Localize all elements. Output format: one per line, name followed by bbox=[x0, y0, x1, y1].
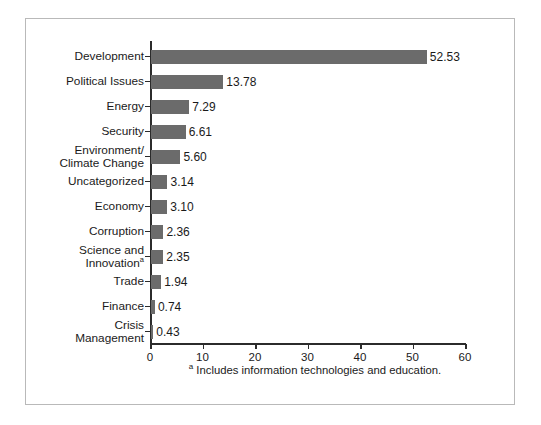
bar-row: Economy3.10 bbox=[0, 195, 541, 220]
bar-value-environment-climate-change: 5.60 bbox=[183, 150, 206, 164]
category-label-uncategorized: Uncategorized bbox=[0, 175, 144, 188]
category-label-crisis-management: Crisis Management bbox=[0, 319, 144, 344]
bar-trade bbox=[151, 275, 161, 289]
bar-value-finance: 0.74 bbox=[158, 300, 181, 314]
category-label-trade: Trade bbox=[0, 275, 144, 288]
bar-corruption bbox=[151, 225, 163, 239]
category-label-development: Development bbox=[0, 50, 144, 63]
bar-security bbox=[151, 125, 186, 139]
x-tick-label-60: 60 bbox=[445, 350, 485, 364]
bar-economy bbox=[151, 200, 167, 214]
chart-figure: 0102030405060 Development52.53Political … bbox=[0, 0, 541, 425]
bar-value-economy: 3.10 bbox=[170, 200, 193, 214]
bar-value-uncategorized: 3.14 bbox=[170, 175, 193, 189]
x-tick-label-20: 20 bbox=[235, 350, 275, 364]
category-footnote-marker: a bbox=[140, 255, 144, 264]
bar-row: Corruption2.36 bbox=[0, 220, 541, 245]
bar-science-and-innovation bbox=[151, 250, 163, 264]
bar-row: Finance0.74 bbox=[0, 295, 541, 320]
bar-energy bbox=[151, 100, 189, 114]
bar-environment-climate-change bbox=[151, 150, 180, 164]
category-label-economy: Economy bbox=[0, 200, 144, 213]
bar-row: Political Issues13.78 bbox=[0, 70, 541, 95]
bar-row: Environment/ Climate Change5.60 bbox=[0, 145, 541, 170]
bar-uncategorized bbox=[151, 175, 167, 189]
bar-value-security: 6.61 bbox=[189, 125, 212, 139]
bar-value-energy: 7.29 bbox=[192, 100, 215, 114]
bar-row: Science and Innovationa2.35 bbox=[0, 245, 541, 270]
bar-row: Security6.61 bbox=[0, 120, 541, 145]
bar-row: Development52.53 bbox=[0, 45, 541, 70]
plot-area: 0102030405060 Development52.53Political … bbox=[0, 0, 541, 425]
category-label-finance: Finance bbox=[0, 300, 144, 313]
bar-value-political-issues: 13.78 bbox=[226, 75, 256, 89]
bar-row: Energy7.29 bbox=[0, 95, 541, 120]
bar-finance bbox=[151, 300, 155, 314]
bar-value-development: 52.53 bbox=[430, 50, 460, 64]
chart-footnote: a Includes information technologies and … bbox=[150, 364, 480, 376]
footnote-marker: a bbox=[189, 362, 193, 371]
bar-political-issues bbox=[151, 75, 223, 89]
x-tick-label-30: 30 bbox=[288, 350, 328, 364]
bar-row: Uncategorized3.14 bbox=[0, 170, 541, 195]
bar-development bbox=[151, 50, 427, 64]
x-tick-label-40: 40 bbox=[340, 350, 380, 364]
category-label-energy: Energy bbox=[0, 100, 144, 113]
category-label-security: Security bbox=[0, 125, 144, 138]
bar-value-crisis-management: 0.43 bbox=[156, 325, 179, 339]
bar-row: Crisis Management0.43 bbox=[0, 320, 541, 345]
x-tick-label-50: 50 bbox=[393, 350, 433, 364]
category-label-science-and-innovation: Science and Innovationa bbox=[0, 244, 144, 269]
bar-crisis-management bbox=[151, 325, 153, 339]
footnote-text: Includes information technologies and ed… bbox=[196, 364, 441, 376]
bar-value-science-and-innovation: 2.35 bbox=[166, 250, 189, 264]
category-label-political-issues: Political Issues bbox=[0, 75, 144, 88]
x-tick-label-0: 0 bbox=[130, 350, 170, 364]
bar-value-corruption: 2.36 bbox=[166, 225, 189, 239]
bar-row: Trade1.94 bbox=[0, 270, 541, 295]
category-label-environment-climate-change: Environment/ Climate Change bbox=[0, 144, 144, 169]
bar-value-trade: 1.94 bbox=[164, 275, 187, 289]
category-label-corruption: Corruption bbox=[0, 225, 144, 238]
